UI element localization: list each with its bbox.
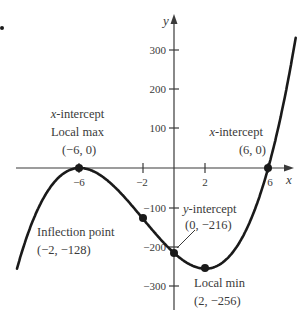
y-tick-label: −300 — [143, 280, 166, 292]
y-axis-arrow-icon — [171, 14, 178, 24]
x-tick-label: −6 — [73, 176, 85, 188]
point-local-min — [201, 264, 209, 272]
annotation-local-max: x-intercept Local max (−6, 0) — [50, 107, 108, 157]
y-tick-label: 100 — [150, 122, 167, 134]
point-x-intercept — [264, 164, 272, 172]
x-axis-label: x — [285, 172, 292, 187]
point-y-intercept — [170, 249, 178, 257]
x-axis-arrow-icon — [284, 165, 294, 172]
x-tick-label: 6 — [267, 176, 273, 188]
annotation-x-intercept: x-intercept (6, 0) — [208, 125, 266, 157]
bullet-dot — [0, 26, 4, 30]
annotation-y-intercept: y-intercept (0, −216) — [181, 202, 240, 232]
x-tick-label: −2 — [136, 176, 148, 188]
annotation-local-min: Local min (2, −256) — [194, 276, 248, 308]
axes — [16, 22, 286, 310]
y-tick-label: −100 — [143, 202, 166, 214]
point-inflection — [139, 214, 147, 222]
y-axis-label: y — [161, 13, 169, 28]
point-local-max — [75, 164, 83, 172]
y-intercept-pointer — [177, 230, 195, 248]
cubic-function-graph: x y −6 −2 2 6 300 200 100 −100 −200 −300… — [0, 0, 302, 311]
y-tick-label: 300 — [150, 44, 167, 56]
x-tick-label: 2 — [202, 176, 208, 188]
y-tick-label: 200 — [150, 83, 167, 95]
annotation-inflection: Inflection point (−2, −128) — [37, 225, 118, 257]
